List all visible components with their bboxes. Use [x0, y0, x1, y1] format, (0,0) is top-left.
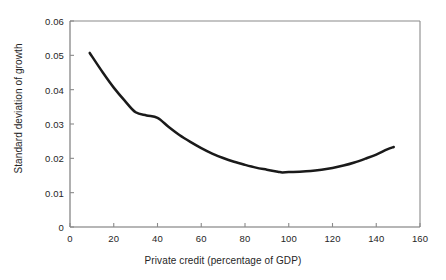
y-tick-label: 0.03	[20, 119, 64, 130]
y-tick-label: 0.02	[20, 153, 64, 164]
y-tick-label: 0.01	[20, 187, 64, 198]
y-tick-label: 0.06	[20, 16, 64, 27]
x-axis-ticks	[70, 223, 420, 227]
x-tick-label: 140	[368, 233, 384, 244]
y-tick-label: 0	[20, 222, 64, 233]
x-tick-label: 120	[324, 233, 340, 244]
x-axis-title: Private credit (percentage of GDP)	[0, 255, 446, 266]
x-tick-label: 0	[67, 233, 72, 244]
x-tick-label: 60	[196, 233, 207, 244]
x-tick-label: 40	[152, 233, 163, 244]
y-axis-ticks	[70, 21, 74, 227]
axis-frame	[70, 21, 420, 227]
x-tick-label: 20	[108, 233, 119, 244]
chart-figure: 00.010.020.030.040.050.06 02040608010012…	[0, 0, 446, 280]
y-tick-label: 0.04	[20, 84, 64, 95]
data-series-line	[90, 53, 394, 172]
x-tick-label: 80	[240, 233, 251, 244]
x-tick-label: 160	[412, 233, 428, 244]
y-tick-label: 0.05	[20, 50, 64, 61]
x-tick-label: 100	[281, 233, 297, 244]
y-axis-title: Standard deviation of growth	[13, 29, 24, 189]
